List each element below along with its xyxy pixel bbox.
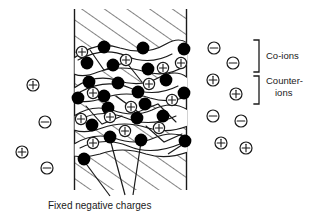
fixed-charge (104, 131, 117, 144)
fixed-charge (86, 119, 99, 132)
fixed-charge (81, 57, 94, 70)
fixed-charge (107, 59, 120, 72)
fixed-charge (98, 41, 111, 54)
fixed-charge (83, 76, 96, 89)
fixed-charge (142, 63, 155, 76)
legend-brackets (254, 40, 259, 104)
fixed-charge (157, 110, 170, 123)
fixed-charge (135, 134, 148, 147)
fixed-charge (137, 42, 150, 55)
bracket-co-ions (254, 40, 259, 72)
fixed-charge (112, 77, 125, 90)
legend-label-counter-ions-line1: Counter- (266, 75, 303, 86)
ion-exchange-membrane-figure: Co-ions Counter- ions Fixed negative cha… (0, 0, 320, 220)
left-solution-ions (16, 79, 53, 174)
fixed-charge (178, 43, 191, 56)
figure-canvas: Co-ions Counter- ions Fixed negative cha… (0, 0, 320, 220)
figure-caption: Fixed negative charges (48, 200, 151, 211)
fixed-charge (179, 135, 192, 148)
fixed-charge (78, 153, 91, 166)
legend-label-co-ions: Co-ions (266, 50, 299, 61)
fixed-charge (72, 92, 85, 105)
fixed-charge (132, 86, 145, 99)
fixed-charge (131, 112, 144, 125)
fixed-charge (139, 98, 152, 111)
legend-label-counter-ions-line2: ions (275, 87, 293, 98)
bracket-counter-ions (254, 76, 259, 104)
fixed-charge (178, 87, 191, 100)
right-solution-ions (207, 42, 252, 154)
fixed-charge (160, 74, 173, 87)
fixed-charge (98, 90, 111, 103)
